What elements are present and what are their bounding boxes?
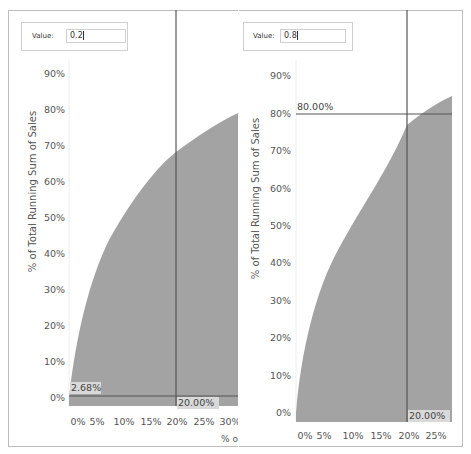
y-tick: 20%	[270, 332, 291, 343]
right-chart-panel: Value: 0.8 % of Total Running Sum of Sal…	[238, 10, 462, 447]
y-tick: 80%	[270, 108, 291, 119]
y-tick: 60%	[270, 183, 291, 194]
left-chart-panel: Value: 0.2 % of Total Running Sum of Sal…	[9, 10, 238, 447]
x-tick: 20%	[166, 416, 187, 427]
ref-label-vertical: 20.00%	[409, 410, 445, 421]
x-tick: 15%	[370, 430, 391, 441]
x-tick: 0%	[70, 416, 85, 427]
y-tick: 40%	[270, 257, 291, 268]
y-tick: 70%	[270, 145, 291, 156]
y-tick: 50%	[270, 220, 291, 231]
x-tick: 10%	[113, 416, 134, 427]
x-axis-ticks: 0% 5% 10% 15% 20% 25% 30%	[70, 416, 238, 427]
ref-label-vertical: 20.00%	[178, 397, 214, 408]
area-series	[69, 113, 238, 406]
y-tick: 20%	[44, 320, 65, 331]
y-tick: 10%	[270, 370, 291, 381]
x-tick: 25%	[193, 416, 214, 427]
y-tick: 30%	[44, 284, 65, 295]
y-axis-ticks: 90% 80% 70% 60% 50% 40% 30% 20% 10% 0%	[44, 68, 65, 403]
x-tick: 30%	[219, 416, 238, 427]
ref-label-horizontal: 80.00%	[297, 101, 333, 112]
y-tick: 30%	[270, 295, 291, 306]
x-tick: 5%	[89, 416, 104, 427]
left-chart-plot[interactable]: 90% 80% 70% 60% 50% 40% 30% 20% 10% 0% 2…	[9, 10, 238, 447]
y-tick: 70%	[44, 140, 65, 151]
y-tick: 0%	[276, 407, 291, 418]
x-tick: 5%	[316, 430, 331, 441]
x-axis-title: % o	[221, 434, 238, 444]
x-tick: 0%	[297, 430, 312, 441]
y-tick: 50%	[44, 212, 65, 223]
x-tick: 10%	[342, 430, 363, 441]
x-tick: 20%	[398, 430, 419, 441]
x-tick: 25%	[425, 430, 446, 441]
y-tick: 90%	[44, 68, 65, 79]
y-tick: 40%	[44, 248, 65, 259]
y-tick: 0%	[50, 392, 65, 403]
y-tick: 90%	[270, 70, 291, 81]
y-tick: 10%	[44, 356, 65, 367]
ref-label-horizontal: 2.68%	[71, 382, 101, 393]
x-axis-ticks: 0% 5% 10% 15% 20% 25%	[297, 430, 446, 441]
area-series	[296, 96, 452, 422]
y-tick: 80%	[44, 104, 65, 115]
y-axis-ticks: 90% 80% 70% 60% 50% 40% 30% 20% 10% 0%	[270, 70, 291, 418]
right-chart-plot[interactable]: 90% 80% 70% 60% 50% 40% 30% 20% 10% 0% 8…	[238, 10, 462, 447]
y-tick: 60%	[44, 176, 65, 187]
x-tick: 15%	[140, 416, 161, 427]
